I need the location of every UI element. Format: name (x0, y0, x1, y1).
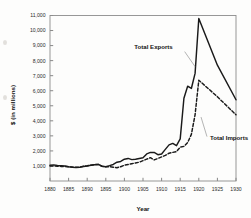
annotation-leader-line (201, 117, 207, 137)
x-tick-label: 1890 (82, 186, 93, 192)
y-axis-title: $ (in millions) (9, 85, 16, 125)
y-tick-label: 10,000 (30, 27, 46, 33)
x-axis-tick-marks (50, 178, 236, 181)
y-tick-label: 11,000 (30, 12, 45, 18)
scan-artifact (3, 40, 7, 45)
x-tick-label: 1925 (212, 186, 223, 192)
x-tick-label: 1910 (156, 186, 167, 192)
y-tick-label: 4,000 (33, 118, 46, 124)
x-tick-label: 1900 (119, 186, 130, 192)
y-tick-label: 1,000 (33, 163, 46, 169)
x-tick-label: 1930 (230, 186, 241, 192)
y-tick-label: 5,000 (33, 103, 46, 109)
x-tick-label: 1880 (44, 186, 55, 192)
x-tick-label: 1920 (193, 186, 204, 192)
y-tick-label: 3,000 (33, 133, 46, 139)
x-axis-title: Year (136, 205, 150, 212)
y-tick-label: 6,000 (33, 88, 46, 94)
y-tick-label: 2,000 (33, 148, 46, 154)
y-axis-tick-marks (50, 16, 53, 166)
x-tick-label: 1905 (137, 186, 148, 192)
x-tick-label: 1915 (175, 186, 186, 192)
chart-figure: 1,0002,0003,0004,0005,0006,0007,0008,000… (0, 0, 251, 218)
series-annotation-label: Total Exports (134, 43, 173, 50)
x-tick-label: 1895 (100, 186, 111, 192)
y-tick-label: 8,000 (33, 58, 46, 64)
y-axis-tick-labels: 1,0002,0003,0004,0005,0006,0007,0008,000… (30, 12, 46, 168)
series-line-total-imports (50, 80, 236, 168)
x-tick-label: 1885 (63, 186, 74, 192)
annotation-leader-line (185, 52, 195, 67)
line-chart: 1,0002,0003,0004,0005,0006,0007,0008,000… (0, 0, 251, 218)
y-tick-label: 9,000 (33, 42, 46, 48)
series-line-total-exports (50, 19, 236, 168)
series-annotation-label: Total Imports (210, 134, 249, 141)
scan-artifact (3, 95, 7, 100)
x-axis-tick-labels: 1880188518901895190019051910191519201925… (44, 186, 241, 192)
y-tick-label: 7,000 (33, 73, 46, 79)
